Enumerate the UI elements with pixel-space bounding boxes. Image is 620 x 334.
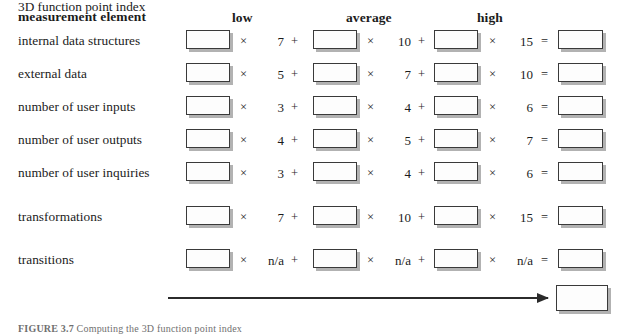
- row-low-weight: 3: [258, 167, 284, 180]
- row-average-count-input[interactable]: [313, 30, 357, 49]
- row-average-count-input[interactable]: [313, 162, 357, 181]
- multiply-icon: ×: [367, 101, 374, 114]
- row-label: internal data structures: [18, 34, 140, 47]
- row-average-weight: 5: [385, 134, 411, 147]
- row-low-count-input[interactable]: [186, 96, 230, 115]
- row-label: transformations: [18, 210, 102, 223]
- arrow-right-icon: [168, 297, 548, 299]
- column-header-average: average: [346, 11, 392, 25]
- row-high-count-input[interactable]: [434, 249, 478, 268]
- row-low-weight: 3: [258, 101, 284, 114]
- figure-caption: FIGURE 3.7 Computing the 3D function poi…: [18, 323, 242, 334]
- multiply-icon: ×: [367, 68, 374, 81]
- row-average-count-input[interactable]: [313, 249, 357, 268]
- row-average-weight: n/a: [385, 254, 411, 267]
- multiply-icon: ×: [240, 167, 247, 180]
- multiply-icon: ×: [367, 134, 374, 147]
- multiply-icon: ×: [489, 101, 496, 114]
- row-average-weight: 10: [385, 35, 411, 48]
- row-average-count-input[interactable]: [313, 129, 357, 148]
- total-index-input[interactable]: [556, 285, 608, 311]
- equals-icon: =: [541, 167, 548, 180]
- row-label: external data: [18, 67, 87, 80]
- multiply-icon: ×: [240, 68, 247, 81]
- multiply-icon: ×: [367, 211, 374, 224]
- row-low-count-input[interactable]: [186, 162, 230, 181]
- figure-caption-label: FIGURE 3.7: [18, 323, 74, 334]
- row-low-count-input[interactable]: [186, 30, 230, 49]
- plus-icon: +: [291, 211, 298, 224]
- row-low-count-input[interactable]: [186, 206, 230, 225]
- row-low-weight: 4: [258, 134, 284, 147]
- multiply-icon: ×: [367, 254, 374, 267]
- row-high-count-input[interactable]: [434, 206, 478, 225]
- column-header-high: high: [477, 11, 503, 25]
- equals-icon: =: [541, 211, 548, 224]
- row-label: number of user inquiries: [18, 166, 150, 179]
- row-low-weight: 5: [258, 68, 284, 81]
- row-result-input[interactable]: [558, 162, 603, 181]
- row-high-count-input[interactable]: [434, 162, 478, 181]
- plus-icon: +: [418, 254, 425, 267]
- plus-icon: +: [291, 68, 298, 81]
- row-result-input[interactable]: [558, 206, 603, 225]
- row-low-count-input[interactable]: [186, 63, 230, 82]
- plus-icon: +: [291, 254, 298, 267]
- multiply-icon: ×: [367, 167, 374, 180]
- multiply-icon: ×: [240, 254, 247, 267]
- total-index-label: 3D function point index: [18, 0, 145, 13]
- row-high-count-input[interactable]: [434, 63, 478, 82]
- row-average-weight: 10: [385, 211, 411, 224]
- plus-icon: +: [418, 35, 425, 48]
- multiply-icon: ×: [489, 254, 496, 267]
- row-high-count-input[interactable]: [434, 129, 478, 148]
- equals-icon: =: [541, 101, 548, 114]
- equals-icon: =: [541, 68, 548, 81]
- multiply-icon: ×: [240, 134, 247, 147]
- row-result-input[interactable]: [558, 96, 603, 115]
- plus-icon: +: [418, 101, 425, 114]
- row-result-input[interactable]: [558, 129, 603, 148]
- row-result-input[interactable]: [558, 63, 603, 82]
- plus-icon: +: [291, 101, 298, 114]
- equals-icon: =: [541, 35, 548, 48]
- multiply-icon: ×: [489, 35, 496, 48]
- row-low-count-input[interactable]: [186, 129, 230, 148]
- row-average-weight: 4: [385, 167, 411, 180]
- row-label: number of user inputs: [18, 100, 135, 113]
- figure-caption-text: Computing the 3D function point index: [77, 323, 242, 334]
- row-low-weight: 7: [258, 35, 284, 48]
- plus-icon: +: [418, 134, 425, 147]
- row-high-count-input[interactable]: [434, 30, 478, 49]
- row-average-count-input[interactable]: [313, 206, 357, 225]
- row-average-weight: 4: [385, 101, 411, 114]
- multiply-icon: ×: [489, 211, 496, 224]
- plus-icon: +: [291, 167, 298, 180]
- column-header-low: low: [232, 11, 253, 25]
- multiply-icon: ×: [240, 101, 247, 114]
- row-high-weight: 15: [507, 211, 533, 224]
- multiply-icon: ×: [489, 68, 496, 81]
- row-high-count-input[interactable]: [434, 96, 478, 115]
- plus-icon: +: [418, 68, 425, 81]
- row-label: transitions: [18, 253, 74, 266]
- row-high-weight: 10: [507, 68, 533, 81]
- row-label: number of user outputs: [18, 133, 142, 146]
- multiply-icon: ×: [240, 35, 247, 48]
- plus-icon: +: [291, 35, 298, 48]
- row-average-weight: 7: [385, 68, 411, 81]
- row-high-weight: 6: [507, 167, 533, 180]
- row-result-input[interactable]: [558, 249, 603, 268]
- row-average-count-input[interactable]: [313, 63, 357, 82]
- row-high-weight: 15: [507, 35, 533, 48]
- row-high-weight: 7: [507, 134, 533, 147]
- plus-icon: +: [291, 134, 298, 147]
- multiply-icon: ×: [489, 167, 496, 180]
- row-low-count-input[interactable]: [186, 249, 230, 268]
- row-average-count-input[interactable]: [313, 96, 357, 115]
- row-high-weight: n/a: [507, 254, 533, 267]
- equals-icon: =: [541, 134, 548, 147]
- row-low-weight: n/a: [258, 254, 284, 267]
- row-result-input[interactable]: [558, 30, 603, 49]
